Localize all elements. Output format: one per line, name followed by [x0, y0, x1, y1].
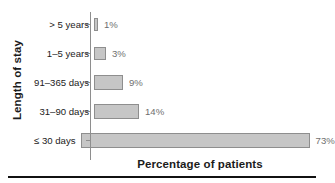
- table-row: 31–90 days 14%: [34, 97, 324, 126]
- bar: [81, 133, 310, 148]
- table-row: 1–5 years 3%: [34, 39, 324, 68]
- category-label: 91–365 days: [34, 78, 91, 88]
- y-axis-tick: [86, 24, 90, 25]
- category-label: 1–5 years: [34, 49, 91, 59]
- bottom-divider: [8, 176, 316, 178]
- category-label: > 5 years: [34, 20, 91, 30]
- bar: [94, 18, 98, 31]
- y-axis-tick: [86, 82, 90, 83]
- bar-value-label: 1%: [104, 20, 118, 30]
- bar: [94, 47, 106, 60]
- bar-zone: 73%: [78, 126, 335, 155]
- y-axis-tick: [86, 53, 90, 54]
- bar: [94, 75, 123, 90]
- bar-zone: 9%: [91, 68, 324, 97]
- x-axis-title: Percentage of patients: [90, 158, 310, 170]
- table-row: ≤ 30 days 73%: [34, 126, 324, 155]
- bar-value-label: 3%: [112, 49, 126, 59]
- y-axis-line: [90, 12, 91, 160]
- bar: [94, 104, 139, 119]
- y-axis-title: Length of stay: [11, 40, 23, 120]
- y-axis-tick: [86, 111, 90, 112]
- table-row: > 5 years 1%: [34, 10, 324, 39]
- y-axis-tick: [86, 140, 90, 141]
- bar-zone: 1%: [91, 10, 324, 39]
- bar-zone: 3%: [91, 39, 324, 68]
- category-label: ≤ 30 days: [34, 136, 78, 146]
- bar-zone: 14%: [91, 97, 324, 126]
- category-label: 31–90 days: [34, 107, 91, 117]
- bar-value-label: 73%: [316, 136, 335, 146]
- bar-value-label: 9%: [129, 78, 143, 88]
- bar-rows: > 5 years 1% 1–5 years 3% 91–365 days 9%: [34, 10, 324, 155]
- y-axis-title-container: Length of stay: [0, 0, 34, 160]
- table-row: 91–365 days 9%: [34, 68, 324, 97]
- plot-area: > 5 years 1% 1–5 years 3% 91–365 days 9%: [34, 10, 324, 155]
- bar-value-label: 14%: [145, 107, 164, 117]
